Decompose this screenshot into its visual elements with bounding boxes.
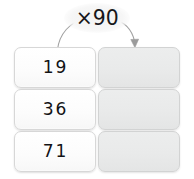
answer-box-3[interactable] (98, 131, 180, 172)
input-value-2: 36 (42, 100, 68, 118)
input-box-2: 36 (14, 89, 96, 130)
answer-box-1[interactable] (98, 47, 180, 88)
rule-label: ×90 (64, 3, 130, 33)
table-row: 71 (14, 131, 180, 172)
input-box-3: 71 (14, 131, 96, 172)
input-value-1: 19 (42, 58, 68, 76)
table-row: 19 (14, 47, 180, 88)
table-row: 36 (14, 89, 180, 130)
rule-label-text: ×90 (75, 8, 118, 29)
problem-grid: 19 36 71 (14, 47, 180, 173)
input-box-1: 19 (14, 47, 96, 88)
answer-box-2[interactable] (98, 89, 180, 130)
function-machine-worksheet: ×90 19 36 71 (0, 0, 194, 179)
input-value-3: 71 (42, 142, 68, 160)
